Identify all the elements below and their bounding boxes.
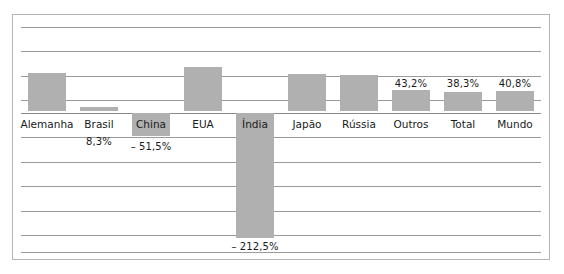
bar-alemanha — [28, 73, 66, 111]
category-label-russia: Rússia — [338, 113, 380, 136]
category-label-eua: EUA — [188, 113, 218, 136]
bar-column-eua: 88,2% EUA — [177, 15, 229, 259]
bar-column-india: Índia – 212,5% — [229, 15, 281, 259]
bar-value-label: 8,3% — [86, 136, 112, 147]
bar-column-japao: 75,3% Japão — [281, 15, 333, 259]
category-label-india: Índia — [238, 113, 272, 136]
bar-column-outros: 43,2% Outros — [385, 15, 437, 259]
category-label-alemanha: Alemanha — [17, 113, 78, 136]
category-label-china: China — [132, 113, 170, 136]
bar-eua — [184, 67, 222, 111]
bar-column-china: China – 51,5% — [125, 15, 177, 259]
bar-value-label: 43,2% — [395, 78, 427, 89]
bar-value-label: – 212,5% — [231, 241, 278, 252]
bar-column-alemanha: 76,2% Alemanha — [21, 15, 73, 259]
bar-japao — [288, 74, 326, 111]
category-label-japao: Japão — [288, 113, 325, 136]
category-label-mundo: Mundo — [493, 113, 536, 136]
bar-value-label: 40,8% — [499, 78, 531, 89]
chart-frame: 76,2% Alemanha 8,3% Brasil China – 51,5%… — [12, 14, 550, 260]
bar-russia — [340, 75, 378, 111]
bar-outros — [392, 90, 430, 111]
bar-column-mundo: 40,8% Mundo — [489, 15, 541, 259]
bar-value-label: 38,3% — [447, 78, 479, 89]
bar-brasil — [80, 107, 118, 111]
bar-column-russia: 71,4% Rússia — [333, 15, 385, 259]
category-label-brasil: Brasil — [80, 113, 117, 136]
bar-column-total: 38,3% Total — [437, 15, 489, 259]
category-label-outros: Outros — [389, 113, 432, 136]
category-label-total: Total — [447, 113, 480, 136]
chart-plot-area: 76,2% Alemanha 8,3% Brasil China – 51,5%… — [13, 15, 549, 259]
bar-value-label: – 51,5% — [131, 141, 172, 152]
bar-mundo — [496, 91, 534, 111]
chart-columns: 76,2% Alemanha 8,3% Brasil China – 51,5%… — [21, 15, 541, 259]
bar-total — [444, 92, 482, 111]
bar-column-brasil: 8,3% Brasil — [73, 15, 125, 259]
